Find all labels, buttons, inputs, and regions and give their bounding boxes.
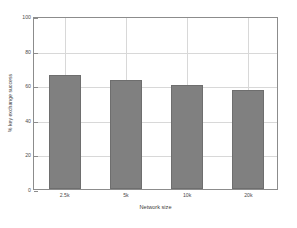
- bar: [110, 80, 142, 189]
- y-tick-label: 20: [25, 154, 31, 159]
- x-axis-label: Network size: [33, 205, 278, 211]
- y-tick-label: 40: [25, 119, 31, 124]
- y-tick-label: 100: [22, 15, 31, 20]
- y-tick-mark: [34, 191, 38, 192]
- y-tick-mark: [34, 122, 38, 123]
- chart-figure: 0204060801002.5k5k10k20k Network size % …: [0, 0, 297, 228]
- y-tick-label: 80: [25, 50, 31, 55]
- y-tick-mark: [34, 53, 38, 54]
- y-gridline: [34, 53, 277, 54]
- y-tick-mark: [34, 156, 38, 157]
- plot-area: 0204060801002.5k5k10k20k: [33, 17, 278, 190]
- bar: [171, 85, 203, 189]
- bar: [49, 75, 81, 189]
- x-tick-label: 5k: [123, 193, 128, 198]
- x-tick-label: 20k: [244, 193, 252, 198]
- y-axis-label: % key exchange success: [8, 74, 13, 132]
- y-tick-mark: [34, 87, 38, 88]
- y-tick-mark: [34, 18, 38, 19]
- x-tick-label: 10k: [183, 193, 191, 198]
- y-tick-label: 0: [28, 188, 31, 193]
- bar: [232, 90, 264, 189]
- y-tick-label: 60: [25, 85, 31, 90]
- x-tick-label: 2.5k: [60, 193, 70, 198]
